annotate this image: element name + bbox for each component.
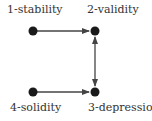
diagram-canvas: 1-stability 2-validity 3-depression 4-so… — [0, 0, 152, 121]
node-1 — [29, 27, 38, 36]
node-3 — [91, 88, 100, 97]
node-label-2: 2-validity — [87, 3, 139, 16]
node-label-1: 1-stability — [7, 3, 63, 16]
node-label-3: 3-depression — [88, 101, 152, 114]
node-4 — [29, 88, 38, 97]
node-label-4: 4-solidity — [10, 101, 61, 114]
node-2 — [91, 27, 100, 36]
